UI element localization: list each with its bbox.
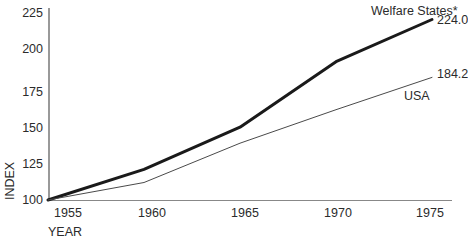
x-tick-label-1975: 1975 (416, 206, 444, 220)
chart-canvas: 225 200 175 150 125 100 1955 1960 1965 1… (0, 0, 468, 245)
series-line-welfare-states (48, 20, 432, 201)
y-tick-label-175: 175 (22, 85, 43, 99)
y-tick-label-150: 150 (22, 121, 43, 135)
series-value-usa: 184.2 (437, 67, 468, 81)
y-tick-label-125: 125 (22, 157, 43, 171)
line-chart-figure: 225 200 175 150 125 100 1955 1960 1965 1… (0, 0, 468, 245)
y-axis-title: INDEX (3, 161, 17, 200)
y-tick-label-225: 225 (22, 6, 43, 20)
series-value-welfare-states: 224.0 (437, 13, 468, 27)
series-label-usa: USA (404, 89, 430, 103)
x-tick-label-1970: 1970 (324, 206, 352, 220)
y-tick-label-200: 200 (22, 42, 43, 56)
x-tick-label-1965: 1965 (231, 206, 259, 220)
x-tick-label-1955: 1955 (54, 206, 82, 220)
y-tick-label-100: 100 (22, 193, 43, 207)
x-axis-title: YEAR (48, 225, 82, 239)
x-tick-label-1960: 1960 (138, 206, 166, 220)
